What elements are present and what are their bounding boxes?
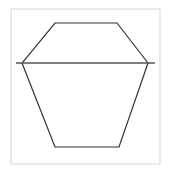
plot-frame — [11, 9, 160, 164]
figure-canvas — [0, 0, 171, 170]
figure-container — [0, 0, 171, 170]
